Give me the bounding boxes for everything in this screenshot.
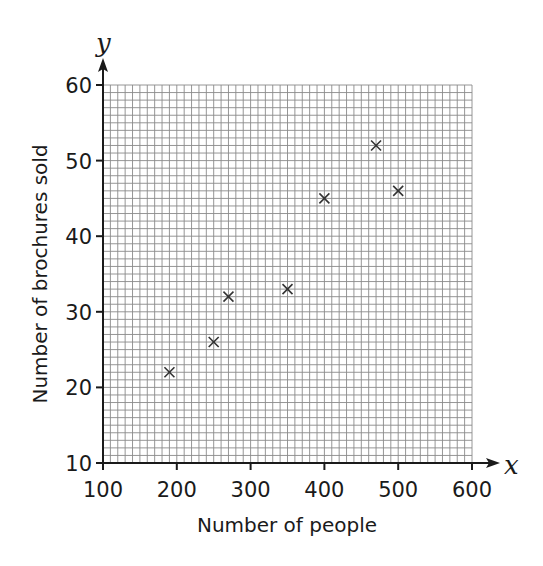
y-axis-variable: y (95, 28, 111, 58)
y-tick-label: 20 (65, 376, 92, 400)
x-axis-title: Number of people (197, 513, 377, 537)
x-tick-label: 200 (157, 478, 197, 502)
x-tick-label: 400 (304, 478, 344, 502)
x-tick-label: 300 (231, 478, 271, 502)
y-axis-title: Number of brochures sold (28, 144, 52, 403)
y-tick-label: 30 (65, 301, 92, 325)
axes (98, 58, 500, 468)
graph-paper-grid (103, 85, 472, 463)
x-tick-label: 100 (83, 478, 123, 502)
y-tick-label: 10 (65, 452, 92, 476)
scatter-chart: 100200300400500600102030405060 Number of… (0, 0, 543, 566)
y-tick-label: 40 (65, 225, 92, 249)
x-tick-label: 600 (452, 478, 492, 502)
y-tick-label: 50 (65, 150, 92, 174)
y-tick-label: 60 (65, 74, 92, 98)
x-tick-label: 500 (378, 478, 418, 502)
x-axis-variable: x (504, 450, 519, 480)
